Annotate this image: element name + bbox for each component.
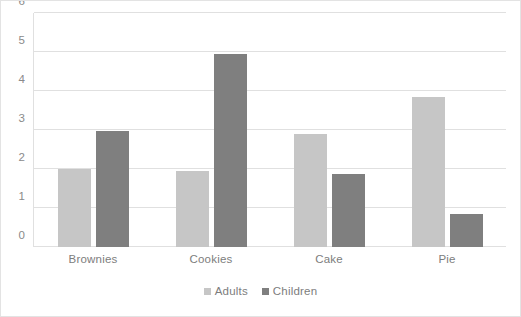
bar-adults-brownies (58, 169, 91, 247)
bar-adults-pie (412, 97, 445, 247)
x-axis-label-pie: Pie (438, 253, 455, 265)
y-axis-tick-label: 4 (18, 73, 25, 85)
legend-item-adults[interactable]: Adults (204, 285, 248, 297)
y-axis-tick-label: 6 (18, 0, 25, 7)
bar-children-cake (332, 174, 365, 247)
bar-group (294, 13, 365, 247)
chart-legend: AdultsChildren (1, 285, 520, 297)
bar-children-pie (450, 214, 483, 247)
bar-adults-cake (294, 134, 327, 247)
y-axis-tick-label: 2 (18, 151, 25, 163)
bar-group (58, 13, 129, 247)
x-axis-label-cookies: Cookies (190, 253, 233, 265)
bar-adults-cookies (176, 171, 209, 247)
y-axis-tick-label: 3 (18, 112, 25, 124)
legend-label: Children (273, 285, 317, 297)
bar-chart: 0123456 BrowniesCookiesCakePie AdultsChi… (0, 0, 521, 317)
plot-area: 0123456 (34, 13, 506, 247)
x-axis-label-cake: Cake (315, 253, 343, 265)
bar-children-brownies (96, 131, 129, 247)
legend-item-children[interactable]: Children (262, 285, 317, 297)
y-axis-tick-label: 0 (18, 229, 25, 241)
x-axis-label-brownies: Brownies (69, 253, 118, 265)
y-axis-tick-label: 1 (18, 190, 25, 202)
bar-group (176, 13, 247, 247)
legend-swatch-icon (204, 288, 211, 295)
legend-swatch-icon (262, 288, 269, 295)
bar-group (412, 13, 483, 247)
y-axis-tick-label: 5 (18, 34, 25, 46)
bar-children-cookies (214, 54, 247, 247)
legend-label: Adults (215, 285, 248, 297)
y-axis-line (33, 13, 34, 247)
